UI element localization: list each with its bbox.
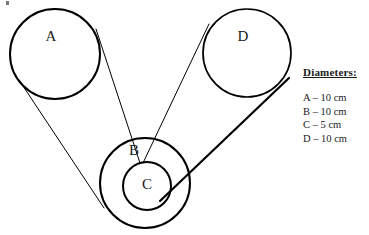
belt-a-to-b-lower bbox=[21, 83, 104, 208]
pulley-a-circle bbox=[10, 9, 100, 99]
legend-item-c: C – 5 cm bbox=[303, 118, 369, 132]
pulley-diagram: A D B C Diameters: A – 10 cm B – 10 cm C… bbox=[0, 0, 369, 235]
legend-item-b: B – 10 cm bbox=[303, 105, 369, 119]
pulley-d-label: D bbox=[238, 28, 249, 44]
legend-title: Diameters: bbox=[303, 66, 369, 78]
pulley-d-circle bbox=[203, 9, 291, 97]
belt-d-to-c-upper bbox=[143, 24, 209, 163]
legend-item-list: A – 10 cm B – 10 cm C – 5 cm D – 10 cm bbox=[303, 91, 369, 145]
pulley-b-label: B bbox=[129, 142, 139, 158]
legend-item-a: A – 10 cm bbox=[303, 91, 369, 105]
diameters-legend: Diameters: A – 10 cm B – 10 cm C – 5 cm … bbox=[303, 66, 369, 145]
pulley-a-label: A bbox=[46, 28, 57, 44]
pulley-c-label: C bbox=[142, 176, 152, 192]
legend-item-d: D – 10 cm bbox=[303, 132, 369, 146]
belt-d-to-c-lower bbox=[160, 78, 289, 201]
